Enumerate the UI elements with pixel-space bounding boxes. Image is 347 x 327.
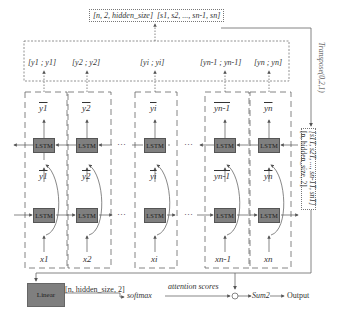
forward-output-n: yn [264, 172, 273, 181]
forward-lstm-2: LSTM [76, 208, 98, 223]
backward-lstm-n: LSTM [258, 138, 280, 153]
backward-output-n-1: yn-1 [214, 104, 230, 113]
forward-output-2: y2 [82, 172, 91, 181]
attention-scores-label: attention scores [168, 283, 219, 291]
sum-label: Sum2 [252, 292, 270, 300]
backward-ellipsis-2: ··· [184, 140, 193, 149]
backward-output-n: yn [264, 104, 273, 113]
input-x2: x2 [83, 255, 92, 264]
hidden-state-stack-box: [n, 2, hidden_size] [s1, s2, ..., sn-1, … [89, 9, 224, 22]
stack-sequence-label: [s1, s2, ..., sn-1, sn] [157, 11, 220, 20]
softmax-label: softmax [127, 292, 152, 300]
concat-pair-n-1: [yn-1 ; yn-1] [200, 58, 241, 67]
input-xi: xi [151, 255, 158, 264]
transposed-sequence-label: [s1T, s2T, ..., sn-1T, snT] [308, 131, 317, 205]
diagram-connectors [0, 0, 347, 327]
input-xn-1: xn-1 [215, 255, 231, 264]
backward-lstm-2: LSTM [76, 138, 98, 153]
backward-lstm-1: LSTM [33, 138, 55, 153]
backward-output-2: y2 [82, 104, 91, 113]
stack-shape-label: [n, 2, hidden_size] [93, 11, 153, 20]
concat-pair-n: [yn ; yn] [254, 58, 282, 67]
forward-ellipsis-2: ··· [184, 210, 193, 219]
backward-output-i: yi [150, 104, 157, 113]
output-label: Output [287, 292, 309, 300]
input-xn: xn [264, 255, 273, 264]
backward-output-1: y1 [39, 104, 48, 113]
concat-pair-1: [y1 ; y1] [28, 58, 56, 67]
forward-lstm-1: LSTM [33, 208, 55, 223]
forward-ellipsis-1: ··· [117, 210, 126, 219]
linear-layer: Linear [27, 283, 65, 307]
concat-pair-i: [yi ; yi] [140, 58, 164, 67]
forward-output-n-1: yn-1 [214, 172, 230, 181]
concat-pair-2: [y2 ; y2] [72, 58, 100, 67]
forward-output-i: yi [150, 172, 157, 181]
forward-lstm-i: LSTM [144, 208, 166, 223]
forward-lstm-n-1: LSTM [214, 208, 236, 223]
forward-output-1: y1 [39, 172, 48, 181]
backward-lstm-n-1: LSTM [214, 138, 236, 153]
linear-output-shape: [n, hidden_size, 2] [65, 286, 125, 294]
forward-lstm-n: LSTM [258, 208, 280, 223]
backward-ellipsis-1: ··· [117, 140, 126, 149]
transposed-shape-label: [n, hidden_size, 2] [299, 131, 308, 187]
transpose-label: Transpose(0,2,1) [317, 42, 326, 93]
input-x1: x1 [40, 255, 49, 264]
backward-lstm-i: LSTM [144, 138, 166, 153]
